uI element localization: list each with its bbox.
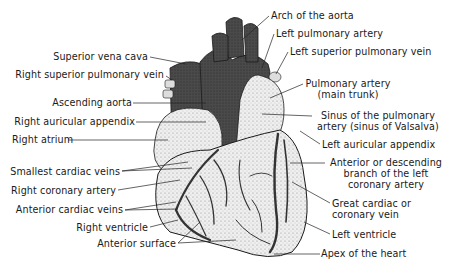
label-pulmonary-artery-line1: Pulmonary artery bbox=[300, 78, 396, 89]
label-sinus-of-pulmonary-artery: Sinus of the pulmonary artery (sinus of … bbox=[312, 110, 444, 132]
label-sinus-line1: Sinus of the pulmonary bbox=[312, 110, 444, 121]
label-anterior-surface: Anterior surface bbox=[80, 238, 176, 249]
label-great-cardiac-vein: Great cardiac or coronary vein bbox=[332, 198, 411, 220]
label-sinus-line2: artery (sinus of Valsalva) bbox=[312, 121, 444, 132]
label-pulmonary-artery: Pulmonary artery (main trunk) bbox=[300, 78, 396, 100]
label-left-pulmonary-artery: Left pulmonary artery bbox=[276, 28, 383, 39]
label-ascending-aorta: Ascending aorta bbox=[40, 97, 132, 108]
label-left-superior-pulmonary-vein: Left superior pulmonary vein bbox=[290, 46, 431, 57]
label-right-atrium: Right atrium bbox=[12, 134, 73, 145]
label-right-auricular-appendix: Right auricular appendix bbox=[6, 116, 135, 127]
label-great-cardiac-line2: coronary vein bbox=[332, 209, 411, 220]
label-anterior-descending-line2: branch of the left bbox=[326, 168, 446, 179]
label-great-cardiac-line1: Great cardiac or bbox=[332, 198, 411, 209]
label-apex-of-the-heart: Apex of the heart bbox=[321, 248, 406, 259]
label-left-ventricle: Left ventricle bbox=[332, 229, 396, 240]
label-anterior-cardiac-veins: Anterior cardiac veins bbox=[6, 204, 123, 215]
label-superior-vena-cava: Superior vena cava bbox=[43, 51, 148, 62]
label-anterior-descending-line3: coronary artery bbox=[326, 179, 446, 190]
label-left-auricular-appendix: Left auricular appendix bbox=[322, 139, 435, 150]
label-pulmonary-artery-line2: (main trunk) bbox=[300, 89, 396, 100]
label-right-superior-pulmonary-vein: Right superior pulmonary vein bbox=[6, 69, 164, 80]
label-right-coronary-artery: Right coronary artery bbox=[6, 185, 116, 196]
label-anterior-descending-branch: Anterior or descending branch of the lef… bbox=[326, 157, 446, 190]
heart-diagram: Superior vena cava Right superior pulmon… bbox=[0, 0, 449, 267]
label-smallest-cardiac-veins: Smallest cardiac veins bbox=[6, 166, 120, 177]
label-right-ventricle: Right ventricle bbox=[60, 222, 148, 233]
label-arch-of-the-aorta: Arch of the aorta bbox=[271, 10, 354, 21]
label-anterior-descending-line1: Anterior or descending bbox=[326, 157, 446, 168]
